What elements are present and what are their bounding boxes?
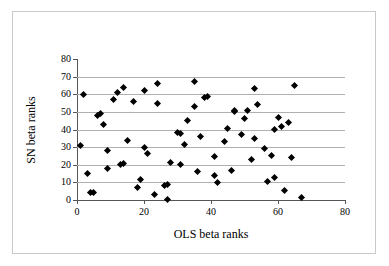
y-tick-label: 10 bbox=[61, 177, 71, 187]
data-point bbox=[221, 138, 228, 145]
data-point bbox=[271, 126, 278, 133]
gridline bbox=[77, 147, 345, 148]
scatter-chart: 01020304050607080 020406080 OLS beta ran… bbox=[0, 0, 389, 266]
data-point bbox=[251, 85, 258, 92]
data-point bbox=[104, 147, 111, 154]
data-point bbox=[154, 80, 161, 87]
data-point bbox=[298, 194, 305, 201]
data-point bbox=[268, 152, 275, 159]
y-tick-mark bbox=[73, 147, 77, 148]
data-point bbox=[197, 133, 204, 140]
data-point bbox=[130, 98, 137, 105]
data-point bbox=[151, 191, 158, 198]
gridline bbox=[77, 130, 345, 131]
figure-canvas: 01020304050607080 020406080 OLS beta ran… bbox=[0, 0, 389, 266]
data-point bbox=[191, 103, 198, 110]
data-point bbox=[194, 168, 201, 175]
x-tick-label: 60 bbox=[273, 207, 283, 217]
data-point bbox=[84, 170, 91, 177]
x-tick-mark bbox=[345, 200, 346, 204]
data-point bbox=[100, 121, 107, 128]
y-tick-label: 60 bbox=[61, 89, 71, 99]
x-tick-label: 20 bbox=[139, 207, 149, 217]
y-tick-mark bbox=[73, 94, 77, 95]
data-point bbox=[140, 87, 147, 94]
y-tick-mark bbox=[73, 59, 77, 60]
data-point bbox=[251, 135, 258, 142]
data-point bbox=[291, 82, 298, 89]
x-tick-label: 80 bbox=[340, 207, 350, 217]
data-point bbox=[120, 84, 127, 91]
gridline bbox=[77, 77, 345, 78]
data-point bbox=[184, 117, 191, 124]
data-point bbox=[281, 187, 288, 194]
data-point bbox=[254, 101, 261, 108]
data-point bbox=[274, 114, 281, 121]
data-point bbox=[271, 174, 278, 181]
gridline bbox=[77, 182, 345, 183]
y-axis-title: SN beta ranks bbox=[24, 59, 38, 200]
y-tick-mark bbox=[73, 165, 77, 166]
data-point bbox=[124, 137, 131, 144]
gridline bbox=[77, 112, 345, 113]
x-tick-label: 0 bbox=[75, 207, 80, 217]
y-tick-label: 30 bbox=[61, 142, 71, 152]
data-point bbox=[80, 91, 87, 98]
x-tick-label: 40 bbox=[206, 207, 216, 217]
data-point bbox=[177, 129, 184, 136]
data-point bbox=[264, 178, 271, 185]
data-point bbox=[248, 156, 255, 163]
plot-area: 01020304050607080 020406080 bbox=[77, 59, 345, 200]
y-tick-mark bbox=[73, 130, 77, 131]
data-point bbox=[144, 150, 151, 157]
data-point bbox=[288, 154, 295, 161]
data-point bbox=[104, 165, 111, 172]
data-point bbox=[224, 125, 231, 132]
data-point bbox=[134, 184, 141, 191]
data-point bbox=[191, 78, 198, 85]
y-axis-title-text: SN beta ranks bbox=[25, 96, 37, 163]
data-point bbox=[228, 166, 235, 173]
x-tick-mark bbox=[278, 200, 279, 204]
y-tick-label: 70 bbox=[61, 72, 71, 82]
data-point bbox=[110, 96, 117, 103]
data-point bbox=[244, 107, 251, 114]
data-point bbox=[238, 131, 245, 138]
x-tick-mark bbox=[211, 200, 212, 204]
y-tick-label: 50 bbox=[61, 107, 71, 117]
y-tick-mark bbox=[73, 182, 77, 183]
data-point bbox=[154, 100, 161, 107]
data-point bbox=[177, 161, 184, 168]
data-point bbox=[241, 115, 248, 122]
y-tick-label: 20 bbox=[61, 160, 71, 170]
y-tick-mark bbox=[73, 77, 77, 78]
x-tick-mark bbox=[77, 200, 78, 204]
y-tick-label: 80 bbox=[61, 54, 71, 64]
data-point bbox=[285, 119, 292, 126]
y-tick-mark bbox=[73, 112, 77, 113]
y-tick-label: 40 bbox=[61, 125, 71, 135]
data-point bbox=[214, 179, 221, 186]
x-axis-title: OLS beta ranks bbox=[77, 228, 345, 240]
y-tick-label: 0 bbox=[66, 195, 71, 205]
x-tick-mark bbox=[144, 200, 145, 204]
data-point bbox=[164, 196, 171, 203]
data-point bbox=[211, 153, 218, 160]
data-point bbox=[90, 189, 97, 196]
